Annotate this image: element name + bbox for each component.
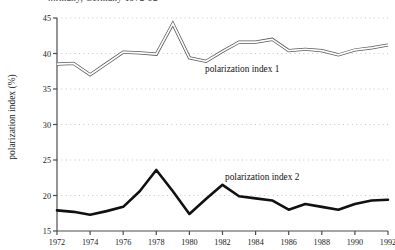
svg-text:25: 25 — [43, 156, 51, 165]
svg-text:1972: 1972 — [49, 238, 65, 247]
svg-text:40: 40 — [43, 50, 51, 59]
data-series-group — [57, 24, 388, 215]
x-axis: 1972197419761978198019821984198619881990… — [49, 231, 395, 247]
series-label-polarization-index-1: polarization index 1 — [205, 64, 279, 74]
series-label-polarization-index-2: polarization index 2 — [225, 172, 299, 182]
y-axis-label: polarization index (%) — [7, 37, 17, 197]
svg-text:1992: 1992 — [380, 238, 395, 247]
svg-text:1986: 1986 — [281, 238, 297, 247]
svg-text:1978: 1978 — [148, 238, 164, 247]
svg-text:1984: 1984 — [247, 238, 263, 247]
svg-text:20: 20 — [43, 192, 51, 201]
svg-text:15: 15 — [43, 227, 51, 236]
svg-text:1980: 1980 — [181, 238, 197, 247]
plot-area: 15202530354045 1972197419761978198019821… — [0, 0, 395, 250]
svg-text:1974: 1974 — [82, 238, 98, 247]
chart-figure: ...rmany, Germany 1972-92 polarization i… — [0, 0, 395, 250]
svg-text:1990: 1990 — [347, 238, 363, 247]
svg-text:1988: 1988 — [314, 238, 330, 247]
y-axis: 15202530354045 — [43, 14, 57, 236]
svg-text:1982: 1982 — [214, 238, 230, 247]
svg-text:30: 30 — [43, 121, 51, 130]
gridlines — [57, 18, 388, 196]
svg-text:35: 35 — [43, 85, 51, 94]
chart-title: ...rmany, Germany 1972-92 — [48, 0, 158, 3]
svg-text:45: 45 — [43, 14, 51, 23]
svg-text:1976: 1976 — [115, 238, 131, 247]
